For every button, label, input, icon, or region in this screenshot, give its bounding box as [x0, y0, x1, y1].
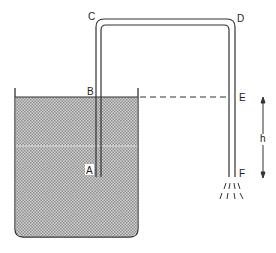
label-d: D: [237, 13, 244, 24]
label-f: F: [239, 168, 245, 179]
siphon-diagram: A B C D E F h: [0, 0, 276, 253]
label-a: A: [86, 165, 93, 176]
water-spray: [220, 183, 243, 199]
water: [15, 97, 138, 236]
label-h: h: [260, 133, 266, 144]
label-c: C: [88, 11, 95, 22]
label-b: B: [87, 86, 94, 97]
label-e: E: [239, 92, 246, 103]
